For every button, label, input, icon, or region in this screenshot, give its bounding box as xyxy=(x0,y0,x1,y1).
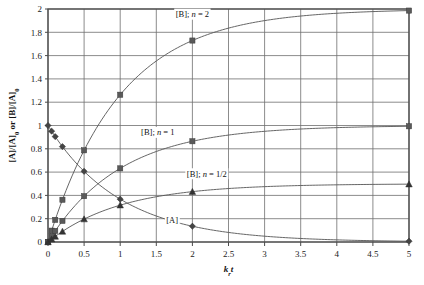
y-axis-title: [A]/[A]0 or [B]/[A]0 xyxy=(7,89,20,163)
annotation-4: [A] xyxy=(166,215,178,225)
chart-figure: 00.511.522.533.544.5500.20.40.60.811.21.… xyxy=(0,0,424,285)
data-point-marker xyxy=(82,194,87,199)
kinetics-line-chart: 00.511.522.533.544.5500.20.40.60.811.21.… xyxy=(0,0,424,285)
y-tick-label: 2 xyxy=(38,4,43,14)
x-tick-label: 4.5 xyxy=(367,249,379,259)
y-tick-label: 1.8 xyxy=(31,28,43,38)
data-point-marker xyxy=(190,38,195,43)
x-tick-label: 0.5 xyxy=(78,249,90,259)
x-tick-label: 5 xyxy=(407,249,412,259)
x-tick-label: 1.5 xyxy=(151,249,163,259)
data-point-marker xyxy=(118,166,123,171)
x-axis-ticks xyxy=(48,242,409,246)
data-point-marker xyxy=(406,124,411,129)
x-tick-label: 3.5 xyxy=(295,249,307,259)
x-tick-label: 3 xyxy=(262,249,267,259)
data-point-marker xyxy=(60,218,65,223)
data-point-marker xyxy=(406,8,411,13)
x-tick-label: 2 xyxy=(190,249,195,259)
data-point-marker xyxy=(60,197,65,202)
y-tick-label: 0.2 xyxy=(31,214,42,224)
y-tick-label: 0.6 xyxy=(31,167,43,177)
y-tick-label: 1.2 xyxy=(31,97,42,107)
x-axis-title: krt xyxy=(224,264,234,277)
y-tick-labels: 00.20.40.60.811.21.41.61.82 xyxy=(31,4,43,247)
data-point-marker xyxy=(118,92,123,97)
annotation-3: [B]; n = 1/2 xyxy=(187,169,227,179)
y-tick-label: 1.6 xyxy=(31,51,43,61)
annotation-2: [B]; n = 1 xyxy=(141,127,174,137)
y-tick-label: 0.8 xyxy=(31,144,43,154)
x-tick-label: 4 xyxy=(335,249,340,259)
data-point-marker xyxy=(82,148,87,153)
x-tick-labels: 00.511.522.533.544.55 xyxy=(46,249,412,259)
y-tick-label: 1.4 xyxy=(31,74,43,84)
y-tick-label: 0.4 xyxy=(31,191,43,201)
y-tick-label: 0 xyxy=(38,237,43,247)
x-tick-label: 0 xyxy=(46,249,51,259)
annotation-1: [B]; n = 2 xyxy=(176,9,209,19)
data-point-marker xyxy=(53,217,58,222)
y-tick-label: 1 xyxy=(38,121,43,131)
data-point-marker xyxy=(190,139,195,144)
x-tick-label: 2.5 xyxy=(223,249,235,259)
x-tick-label: 1 xyxy=(118,249,123,259)
